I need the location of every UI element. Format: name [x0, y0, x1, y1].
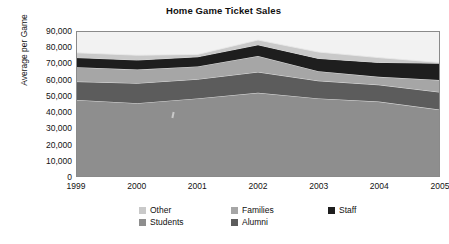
legend-swatch-icon — [139, 219, 146, 226]
legend-swatch-icon — [328, 207, 335, 214]
y-axis-tick: 30,000 — [0, 123, 72, 133]
legend-label: Other — [150, 206, 171, 215]
legend-swatch-icon — [231, 207, 238, 214]
x-axis-tick: 2000 — [127, 181, 146, 191]
legend-label: Families — [242, 206, 274, 215]
y-axis-tick: 80,000 — [0, 42, 72, 52]
y-axis-tick: 60,000 — [0, 75, 72, 85]
x-axis-tick: 2004 — [370, 181, 389, 191]
y-axis-tick: 20,000 — [0, 140, 72, 150]
y-axis-tick: 70,000 — [0, 58, 72, 68]
x-axis-tick: 2001 — [188, 181, 207, 191]
x-axis-tick-labels: 1999200020012002200320042005 — [76, 181, 440, 195]
y-axis-tick: 90,000 — [0, 26, 72, 36]
legend-item-alumni[interactable]: Alumni — [231, 218, 268, 227]
area-band-students — [77, 93, 439, 176]
chart-legend: OtherFamiliesStaffStudentsAlumni — [0, 206, 447, 236]
legend-item-students[interactable]: Students — [139, 218, 184, 227]
legend-item-staff[interactable]: Staff — [328, 206, 356, 215]
legend-item-other[interactable]: Other — [139, 206, 171, 215]
y-axis-tick: 50,000 — [0, 91, 72, 101]
x-axis-tick: 2003 — [309, 181, 328, 191]
x-axis-tick: 2005 — [431, 181, 449, 191]
x-axis-tick: 2002 — [249, 181, 268, 191]
legend-label: Students — [150, 218, 184, 227]
y-axis-tick: 10,000 — [0, 156, 72, 166]
plot-area — [76, 31, 440, 177]
legend-swatch-icon — [139, 207, 146, 214]
y-axis-tick: 40,000 — [0, 107, 72, 117]
legend-label: Alumni — [242, 218, 268, 227]
stacked-area-plot — [77, 32, 439, 176]
legend-label: Staff — [339, 206, 356, 215]
y-axis-tick: 0 — [0, 172, 72, 182]
legend-item-families[interactable]: Families — [231, 206, 274, 215]
x-axis-tick: 1999 — [67, 181, 86, 191]
legend-swatch-icon — [231, 219, 238, 226]
